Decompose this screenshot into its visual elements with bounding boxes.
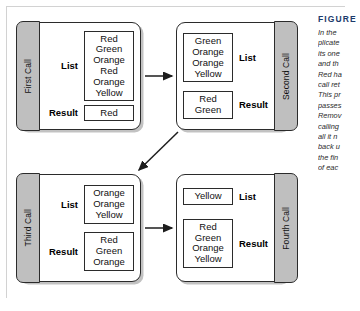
list-row: List Red Green Orange Red Orange Yellow xyxy=(46,31,134,102)
caption-line: of eac xyxy=(318,163,360,173)
result-values-box: Red Green Orange xyxy=(84,232,134,270)
caption-line: call ret xyxy=(318,80,360,90)
arrow-second-to-third xyxy=(139,132,178,170)
list-value: Orange xyxy=(92,77,126,88)
result-row: Result Red Green Orange xyxy=(46,232,134,270)
call-frame-second-call: Green Orange Orange Yellow List Red Gree… xyxy=(176,22,288,130)
caption-line: In the xyxy=(318,28,360,38)
list-value: Yellow xyxy=(191,191,225,202)
caption-line: plicate xyxy=(318,38,360,48)
list-label: List xyxy=(239,52,256,63)
call-body: List Orange Orange Yellow Result Red Gre… xyxy=(40,175,140,281)
caption-line: the fin xyxy=(318,153,360,163)
list-label: List xyxy=(239,191,256,202)
result-value: Orange xyxy=(92,257,126,268)
caption-line: back u xyxy=(318,142,360,152)
figure-caption: FIGURE In the plicate its one and th Red… xyxy=(318,14,360,174)
caption-line: calling xyxy=(318,122,360,132)
result-label: Result xyxy=(239,238,268,249)
result-values-box: Red xyxy=(84,105,134,122)
caption-line: and th xyxy=(318,59,360,69)
call-frame-fourth-call: Yellow List Red Green Orange Yellow Resu… xyxy=(176,174,288,282)
caption-line: passes xyxy=(318,101,360,111)
result-value: Red xyxy=(191,222,225,233)
list-row: List Orange Orange Yellow xyxy=(46,185,134,223)
list-row: Green Orange Orange Yellow List xyxy=(183,33,268,82)
list-values-box: Yellow xyxy=(183,188,233,205)
result-value: Yellow xyxy=(191,254,225,265)
result-label: Result xyxy=(49,107,78,118)
figure-frame-top-rule xyxy=(6,6,345,7)
call-tab-fourth-call: Fourth Call xyxy=(274,173,298,282)
result-value: Green xyxy=(191,105,225,116)
list-value: Yellow xyxy=(191,69,225,80)
list-label: List xyxy=(61,60,78,71)
result-value: Red xyxy=(92,108,126,119)
caption-line: This pr xyxy=(318,90,360,100)
call-body: Green Orange Orange Yellow List Red Gree… xyxy=(177,23,274,129)
list-value: Yellow xyxy=(92,88,126,99)
result-row: Red Green Orange Yellow Result xyxy=(183,219,268,268)
call-tab-label: First Call xyxy=(23,59,33,94)
list-row: Yellow List xyxy=(183,188,268,205)
result-label: Result xyxy=(239,99,268,110)
list-values-box: Orange Orange Yellow xyxy=(84,185,134,223)
list-label: List xyxy=(61,199,78,210)
call-body: List Red Green Orange Red Orange Yellow … xyxy=(40,23,140,129)
call-tab-first-call: First Call xyxy=(16,21,40,130)
caption-line: its one xyxy=(318,49,360,59)
call-tab-third-call: Third Call xyxy=(16,173,40,282)
call-body: Yellow List Red Green Orange Yellow Resu… xyxy=(177,175,274,281)
result-row: Red Green Result xyxy=(183,91,268,119)
call-frame-first-call: First Call List Red Green Orange Red Ora… xyxy=(17,22,141,130)
call-frame-third-call: Third Call List Orange Orange Yellow Res… xyxy=(17,174,141,282)
result-row: Result Red xyxy=(46,105,134,122)
caption-line: Red ha xyxy=(318,70,360,80)
result-label: Result xyxy=(49,246,78,257)
call-tab-label: Second Call xyxy=(281,53,291,100)
list-values-box: Red Green Orange Red Orange Yellow xyxy=(84,31,134,102)
caption-line: all it n xyxy=(318,132,360,142)
result-values-box: Red Green xyxy=(183,91,233,119)
list-values-box: Green Orange Orange Yellow xyxy=(183,33,233,82)
caption-line: Remov xyxy=(318,111,360,121)
result-values-box: Red Green Orange Yellow xyxy=(183,219,233,268)
call-tab-second-call: Second Call xyxy=(274,21,298,130)
call-tab-label: Fourth Call xyxy=(281,207,291,250)
figure-caption-title: FIGURE xyxy=(318,14,360,24)
figure-frame-left-rule xyxy=(6,6,7,298)
call-tab-label: Third Call xyxy=(23,209,33,246)
list-value: Yellow xyxy=(92,210,126,221)
